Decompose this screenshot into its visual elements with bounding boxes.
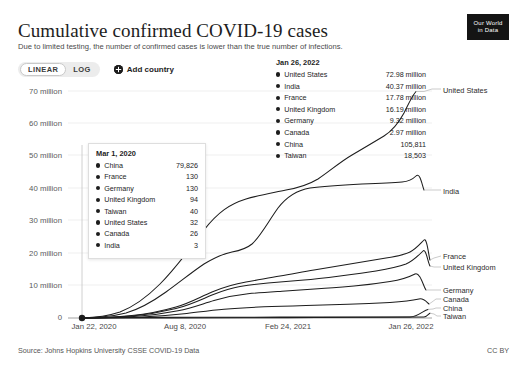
y-tick-label: 30 million — [6, 216, 62, 225]
tooltip-value: 2.97 million — [390, 128, 426, 137]
series-line-united-kingdom — [82, 251, 430, 318]
y-tick-label: 0 — [6, 313, 62, 322]
series-dot-icon — [276, 96, 280, 100]
series-label-india[interactable]: India — [443, 187, 459, 196]
tooltip-value: 79,826 — [176, 161, 198, 170]
tooltip-row: Germany 9.32 million — [276, 116, 426, 125]
tooltip-value: 26 — [190, 229, 198, 238]
tooltip-country: Taiwan — [284, 151, 404, 160]
tooltip-country: United Kingdom — [104, 195, 190, 204]
tooltip-value: 32 — [190, 218, 198, 227]
series-dot-icon — [96, 163, 100, 167]
y-tick-label: 40 million — [6, 184, 62, 193]
tooltip-country: United States — [104, 218, 190, 227]
tooltip-row: France 17.78 million — [276, 93, 426, 102]
tooltip-row: United Kingdom 94 — [96, 195, 198, 204]
series-dot-icon — [96, 175, 100, 179]
series-dot-icon — [276, 154, 280, 158]
license-label[interactable]: CC BY — [487, 346, 509, 355]
series-label-germany[interactable]: Germany — [443, 286, 473, 295]
tooltip-row: Taiwan 40 — [96, 207, 198, 216]
tooltip-value: 94 — [190, 195, 198, 204]
tooltip-row: China 105,811 — [276, 140, 426, 149]
series-label-united-kingdom[interactable]: United Kingdom — [443, 263, 496, 272]
tooltip-start-date-label: Mar 1, 2020 — [96, 149, 198, 158]
series-dot-icon — [96, 198, 100, 202]
tooltip-value: 3 — [194, 241, 198, 250]
tooltip-country: United States — [284, 70, 385, 79]
tooltip-row: United States 32 — [96, 218, 198, 227]
series-dot-icon — [276, 84, 280, 88]
y-tick-label: 70 million — [6, 87, 62, 96]
tooltip-country: India — [284, 82, 385, 91]
tooltip-country: India — [104, 241, 194, 250]
tooltip-value: 9.32 million — [390, 116, 426, 125]
tooltip-country: Canada — [104, 229, 190, 238]
tooltip-value: 40.37 million — [386, 82, 426, 91]
tooltip-row: Canada 26 — [96, 229, 198, 238]
series-dot-icon — [276, 142, 280, 146]
tooltip-end-date: Jan 26, 2022 United States 72.98 million… — [276, 58, 426, 163]
y-tick-label: 20 million — [6, 249, 62, 258]
tooltip-value: 72.98 million — [386, 70, 426, 79]
tooltip-value: 40 — [190, 207, 198, 216]
tooltip-row: Germany 130 — [96, 184, 198, 193]
series-dot-icon — [276, 119, 280, 123]
owid-chart-page: Cumulative confirmed COVID-19 cases Due … — [0, 0, 521, 372]
x-tick-label: Feb 24, 2021 — [265, 322, 311, 331]
tooltip-country: France — [284, 93, 385, 102]
tooltip-value: 17.78 million — [386, 93, 426, 102]
series-dot-icon — [96, 243, 100, 247]
series-dot-icon — [96, 186, 100, 190]
tooltip-value: 16.19 million — [386, 105, 426, 114]
series-dot-icon — [276, 72, 280, 76]
tooltip-start-date: Mar 1, 2020 China 79,826 France 130 Germ… — [88, 143, 206, 259]
tooltip-country: China — [284, 140, 400, 149]
series-label-united-states[interactable]: United States — [443, 86, 487, 95]
series-dot-icon — [96, 232, 100, 236]
tooltip-country: Canada — [284, 128, 389, 137]
tooltip-row: China 79,826 — [96, 161, 198, 170]
tooltip-country: Germany — [104, 184, 186, 193]
tooltip-value: 18,503 — [404, 151, 426, 160]
tooltip-country: United Kingdom — [284, 105, 385, 114]
tooltip-row: India 40.37 million — [276, 82, 426, 91]
tooltip-country: Germany — [284, 116, 389, 125]
series-label-canada[interactable]: Canada — [443, 295, 469, 304]
series-dot-icon — [96, 209, 100, 213]
tooltip-row: United States 72.98 million — [276, 70, 426, 79]
tooltip-country: China — [104, 161, 176, 170]
tooltip-row: Taiwan 18,503 — [276, 151, 426, 160]
source-note: Source: Johns Hopkins University CSSE CO… — [18, 346, 199, 355]
tooltip-country: Taiwan — [104, 207, 190, 216]
x-tick-label: Jan 22, 2020 — [71, 322, 116, 331]
tooltip-row: France 130 — [96, 172, 198, 181]
tooltip-row: United Kingdom 16.19 million — [276, 105, 426, 114]
y-tick-label: 10 million — [6, 281, 62, 290]
tooltip-value: 130 — [186, 172, 198, 181]
tooltip-end-date-label: Jan 26, 2022 — [276, 58, 426, 67]
series-dot-icon — [276, 107, 280, 111]
series-dot-icon — [276, 130, 280, 134]
tooltip-country: France — [104, 172, 186, 181]
y-tick-label: 60 million — [6, 119, 62, 128]
tooltip-value: 105,811 — [401, 140, 426, 149]
tooltip-value: 130 — [186, 184, 198, 193]
x-tick-label: Aug 8, 2020 — [164, 322, 206, 331]
series-label-france[interactable]: France — [443, 252, 466, 261]
x-tick-label: Jan 26, 2022 — [388, 322, 433, 331]
y-tick-label: 50 million — [6, 151, 62, 160]
series-label-taiwan[interactable]: Taiwan — [443, 312, 466, 321]
series-dot-icon — [96, 220, 100, 224]
tooltip-row: India 3 — [96, 241, 198, 250]
tooltip-row: Canada 2.97 million — [276, 128, 426, 137]
